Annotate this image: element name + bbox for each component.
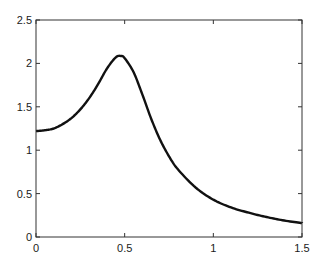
axes-box [36, 20, 302, 237]
line-chart: 00.511.500.511.522.5 [0, 0, 322, 265]
x-tick-label: 1.5 [294, 242, 309, 254]
x-tick-label: 0 [33, 242, 39, 254]
x-tick-label: 0.5 [117, 242, 132, 254]
y-tick-label: 2.5 [17, 14, 32, 26]
y-tick-label: 1 [26, 144, 32, 156]
y-tick-label: 0.5 [17, 188, 32, 200]
axis-ticks [36, 20, 302, 237]
y-tick-label: 1.5 [17, 101, 32, 113]
response-curve [36, 56, 302, 223]
y-tick-label: 2 [26, 57, 32, 69]
x-tick-label: 1 [210, 242, 216, 254]
y-tick-label: 0 [26, 231, 32, 243]
